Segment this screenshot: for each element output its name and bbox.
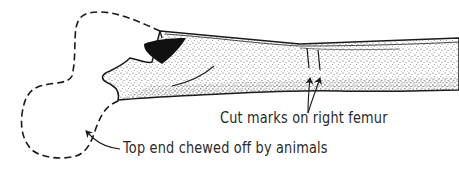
- cut-marks-label: Cut marks on right femur: [220, 109, 388, 127]
- chewed-end-label: Top end chewed off by animals: [123, 139, 328, 157]
